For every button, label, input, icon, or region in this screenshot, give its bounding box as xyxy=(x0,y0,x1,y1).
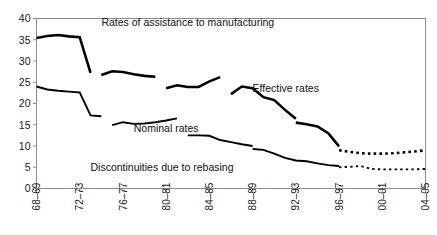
x-tick-label: 00–01 xyxy=(377,182,388,210)
nominal-rates-label: Nominal rates xyxy=(134,122,199,134)
y-tick-label: 35 xyxy=(19,34,31,46)
chart-container: 0510152025303540 68–6972–7376–7780–8184–… xyxy=(0,0,437,235)
x-tick-label: 68–69 xyxy=(31,182,42,210)
y-tick-label: 25 xyxy=(19,76,31,88)
x-tick-label: 72–73 xyxy=(74,182,85,210)
chart-title-annotation: Rates of assistance to manufacturing xyxy=(101,16,274,28)
x-tick-label: 04–05 xyxy=(420,182,431,210)
x-tick-label: 76–77 xyxy=(118,182,129,210)
y-tick-label: 5 xyxy=(25,161,31,173)
y-tick-label: 40 xyxy=(19,12,31,24)
x-tick-label: 84–85 xyxy=(204,182,215,210)
x-tick-label: 96–97 xyxy=(334,182,345,210)
y-tick-label: 0 xyxy=(25,182,31,194)
y-tick-label: 30 xyxy=(19,55,31,67)
discontinuities-note: Discontinuities due to rebasing xyxy=(91,161,234,173)
assistance-rates-line-chart: 0510152025303540 68–6972–7376–7780–8184–… xyxy=(0,0,437,235)
x-tick-label: 80–81 xyxy=(161,182,172,210)
y-tick-label: 20 xyxy=(19,97,31,109)
y-tick-label: 10 xyxy=(19,140,31,152)
x-tick-label: 92–93 xyxy=(290,182,301,210)
x-tick-label: 88–89 xyxy=(247,182,258,210)
effective-rates-label: Effective rates xyxy=(253,82,319,94)
y-tick-label: 15 xyxy=(19,119,31,131)
